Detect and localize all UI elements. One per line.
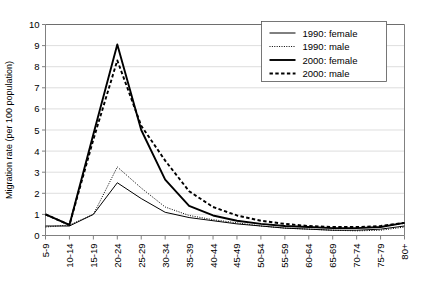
y-axis-ticks: 012345678910 [29,19,46,241]
x-tick-label: 80+ [399,243,410,260]
chart-canvas: 012345678910 5-910-1415-1920-2425-2930-3… [0,0,422,285]
legend-label: 2000: male [303,68,350,79]
y-tick-label: 4 [34,146,39,157]
y-tick-label: 5 [34,125,39,136]
x-tick-label: 55-59 [279,244,290,268]
x-tick-label: 5-9 [40,244,51,258]
y-tick-label: 6 [34,103,39,114]
y-tick-label: 8 [34,61,39,72]
migration-rate-chart: 012345678910 5-910-1415-1920-2425-2930-3… [0,0,422,285]
chart-legend: 1990: female1990: male2000: female2000: … [262,22,387,82]
series-line-1990-male [46,167,405,231]
y-tick-label: 7 [34,82,39,93]
legend-label: 1990: female [303,28,358,39]
x-tick-label: 35-39 [184,244,195,268]
y-tick-label: 3 [34,167,39,178]
x-tick-label: 30-34 [160,244,171,268]
y-axis-title: Migration rate (per 100 population) [4,61,14,199]
x-tick-label: 75-79 [375,244,386,268]
y-tick-label: 9 [34,40,39,51]
legend-label: 1990: male [303,41,350,52]
series-line-2000-male [46,60,405,227]
y-tick-label: 0 [34,230,39,241]
y-axis-title-text: Migration rate (per 100 population) [4,61,14,199]
x-tick-label: 10-14 [64,244,75,268]
x-tick-label: 40-44 [208,244,219,268]
x-tick-label: 60-64 [303,244,314,268]
y-tick-label: 2 [34,188,39,199]
x-tick-label: 25-29 [136,244,147,268]
x-tick-label: 20-24 [112,244,123,268]
legend-label: 2000: female [303,55,358,66]
y-tick-label: 1 [34,209,39,220]
y-tick-label: 10 [29,19,40,30]
x-tick-label: 70-74 [351,244,362,268]
series-line-1990-female [46,183,405,230]
x-axis-ticks: 5-910-1415-1920-2425-2930-3435-3940-4445… [40,236,410,268]
x-tick-label: 65-69 [327,244,338,268]
x-tick-label: 45-49 [231,244,242,268]
x-tick-label: 15-19 [88,244,99,268]
x-tick-label: 50-54 [255,244,266,268]
